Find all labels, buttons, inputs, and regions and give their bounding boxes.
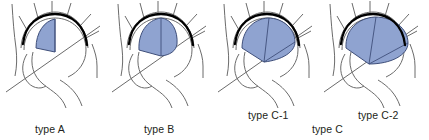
panel-label-type-c2: type C-2: [358, 109, 398, 121]
panel-label-type-a: type A: [35, 123, 65, 135]
classification-figure: type A type B type C-1 type C-2 type C: [0, 0, 429, 140]
panel-type-c1: [218, 1, 312, 108]
panel-type-b: [112, 1, 206, 108]
panel-label-type-b: type B: [144, 123, 174, 135]
panel-label-type-c1: type C-1: [248, 109, 288, 121]
lesion-area: [139, 18, 177, 56]
group-label-type-c: type C: [312, 123, 343, 135]
panel-type-c2: [324, 1, 418, 108]
panel-type-a: [6, 1, 100, 108]
lesion-area: [36, 19, 55, 52]
lesion-area: [346, 17, 408, 64]
